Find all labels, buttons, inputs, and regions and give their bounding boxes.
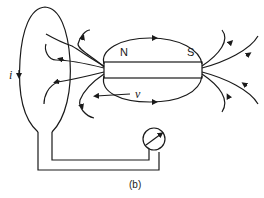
diagram-canvas bbox=[0, 0, 264, 198]
field-line-n1 bbox=[46, 34, 104, 66]
velocity-label: v bbox=[135, 88, 140, 100]
lead-wire-outer bbox=[38, 132, 159, 170]
lead-wire-inner bbox=[52, 132, 149, 160]
current-label: i bbox=[9, 69, 12, 81]
south-pole-label: S bbox=[187, 47, 194, 58]
wire-loop bbox=[20, 7, 71, 132]
electromagnetic-induction-diagram: N S i v (b) bbox=[0, 0, 264, 198]
field-line-bottom bbox=[103, 76, 202, 102]
bar-magnet bbox=[104, 62, 202, 78]
figure-caption: (b) bbox=[129, 180, 141, 190]
field-line-s1 bbox=[202, 30, 225, 66]
north-pole-label: N bbox=[120, 47, 128, 58]
